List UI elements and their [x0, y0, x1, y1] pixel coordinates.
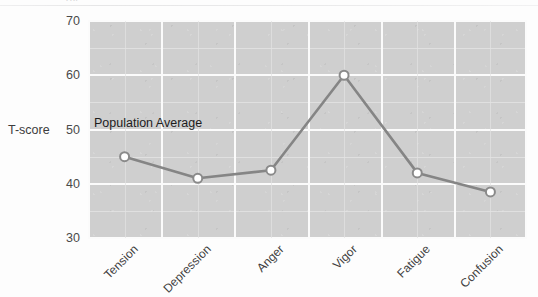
x-axis-tick-labels: TensionDepressionAngerVigorFatigueConfus…	[88, 238, 527, 297]
y-tick-label-30: 30	[50, 231, 80, 245]
y-tick-label-40: 40	[50, 177, 80, 191]
gridline-x-boundary-6	[525, 21, 527, 238]
gridline-x-boundary-3	[308, 21, 310, 238]
gridline-minor-x-fatigue	[417, 21, 418, 238]
gridline-minor-x-anger	[271, 21, 272, 238]
x-tick-label-anger: Anger	[254, 242, 287, 275]
x-tick-label-vigor: Vigor	[330, 242, 360, 272]
y-tick-label-60: 60	[50, 68, 80, 82]
y-axis-tick-labels: 3040506070	[44, 21, 80, 238]
y-tick-label-50: 50	[50, 123, 80, 137]
poms-profile-chart: T-score 3040506070 TensionDepressionAnge…	[0, 0, 538, 297]
x-tick-label-tension: Tension	[101, 242, 141, 282]
gridline-minor-x-vigor	[344, 21, 345, 238]
gridline-x-boundary-0	[88, 21, 90, 238]
x-tick-label-confusion: Confusion	[458, 242, 507, 291]
gridline-x-boundary-4	[381, 21, 383, 238]
gridline-x-boundary-2	[234, 21, 236, 238]
gridline-x-boundary-5	[454, 21, 456, 238]
y-tick-label-70: 70	[50, 14, 80, 28]
x-tick-label-depression: Depression	[160, 242, 214, 296]
gridline-minor-x-confusion	[490, 21, 491, 238]
x-tick-label-fatigue: Fatigue	[394, 242, 433, 281]
annotation-population-average: Population Average	[91, 115, 205, 132]
